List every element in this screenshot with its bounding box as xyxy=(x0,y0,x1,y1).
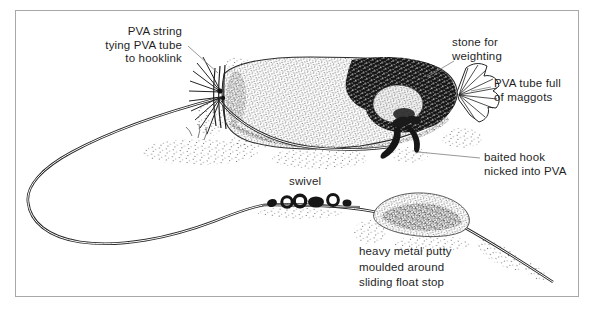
label-stone: stone for weighting xyxy=(452,36,502,63)
label-pva-string: PVA string tying PVA tube to hooklink xyxy=(105,25,182,66)
label-pva-tube: PVA tube full of maggots xyxy=(494,76,561,104)
label-line: PVA string xyxy=(105,25,182,39)
label-line: sliding float stop xyxy=(359,275,452,291)
label-line: heavy metal putty xyxy=(359,244,452,260)
label-line: nicked into PVA xyxy=(484,164,567,178)
label-line: moulded around xyxy=(359,260,452,276)
label-putty: heavy metal putty moulded around sliding… xyxy=(359,244,452,291)
label-line: baited hook xyxy=(484,150,567,164)
label-line: tying PVA tube xyxy=(105,39,182,53)
label-line: PVA tube full xyxy=(494,76,561,90)
label-line: to hooklink xyxy=(105,52,182,66)
figure: PVA string tying PVA tube to hooklink st… xyxy=(0,0,596,311)
label-line: weighting xyxy=(452,50,502,64)
label-line: of maggots xyxy=(494,90,561,104)
label-line: stone for xyxy=(452,36,502,50)
label-baited-hook: baited hook nicked into PVA xyxy=(484,150,567,178)
label-line: swivel xyxy=(289,175,321,189)
label-swivel: swivel xyxy=(289,175,321,189)
